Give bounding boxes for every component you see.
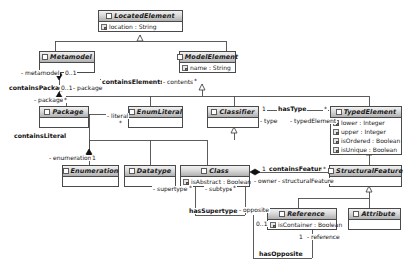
attribute-row: isUnique : Boolean — [331, 145, 401, 154]
class-header: Datatype — [125, 166, 175, 177]
class-name: Package — [52, 109, 83, 116]
role-label-contents: - contents — [162, 79, 194, 85]
class-icon — [328, 168, 334, 174]
class-attributes — [40, 118, 88, 127]
attribute-label: name : String — [190, 65, 231, 71]
class-header: Classifier — [208, 107, 258, 118]
class-header: ModelElement — [180, 52, 235, 63]
attribute-row: name : String — [180, 63, 235, 72]
attribute-label: isUnique : Boolean — [341, 147, 397, 153]
attribute-label: location : String — [109, 24, 157, 30]
class-attributes — [129, 118, 182, 127]
role-label-opposite: - opposite — [238, 207, 270, 213]
attribute-icon — [101, 24, 107, 30]
assoc-label-contains-literal: containsLiteral — [13, 133, 67, 139]
uml-class-package[interactable]: Package — [39, 106, 89, 128]
attribute-label: isOrdered : Boolean — [341, 138, 400, 144]
attribute-row: isOrdered : Boolean — [331, 136, 401, 145]
role-label-package: - package — [33, 97, 64, 103]
mult-label-typed-element: * — [323, 106, 328, 112]
mult-label-enumeration: 1 — [91, 155, 97, 161]
class-header: StructuralFeature — [330, 166, 401, 177]
class-name: TypedElement — [344, 109, 397, 116]
mult-label-package: * — [63, 97, 68, 103]
uml-class-model-element[interactable]: ModelElement name : String — [179, 51, 236, 73]
class-attributes: name : String — [180, 63, 235, 72]
role-label-typed-element: - typedElement — [289, 118, 337, 124]
attribute-row: location : String — [99, 22, 182, 31]
class-attributes — [330, 177, 401, 186]
uml-class-attribute[interactable]: Attribute — [348, 208, 401, 230]
class-name: EnumLiteral — [137, 109, 182, 116]
class-name: Class — [209, 168, 229, 175]
class-header: Enumeration — [63, 166, 118, 177]
attribute-icon — [270, 222, 276, 228]
role-label-package-mid: - package — [72, 85, 103, 91]
attribute-label: isContainer : Boolean — [278, 222, 342, 228]
attribute-row: isContainer : Boolean — [268, 220, 336, 229]
attribute-icon — [333, 129, 339, 135]
uml-class-structural-feature[interactable]: StructuralFeature — [329, 165, 402, 187]
class-header: Package — [40, 107, 88, 118]
class-header: Attribute — [349, 209, 400, 220]
attribute-row: lower : Integer — [331, 118, 401, 127]
role-label-subtype: - subtype — [204, 186, 234, 192]
uml-class-located-element[interactable]: LocatedElement location : String — [98, 10, 183, 32]
mult-label-reference: 1 — [298, 234, 304, 240]
attribute-label: isAbstract : Boolean — [191, 179, 251, 185]
class-attributes: isContainer : Boolean — [268, 220, 336, 229]
class-name: Datatype — [137, 168, 171, 175]
mult-label-owner: 1 — [261, 166, 267, 172]
uml-class-datatype[interactable]: Datatype — [124, 165, 176, 187]
class-name: ModelElement — [185, 54, 238, 61]
empty-compartment — [330, 177, 401, 186]
class-attributes — [349, 220, 400, 229]
class-attributes: lower : Integer upper : Integer isOrdere… — [331, 118, 401, 154]
uml-class-enum-literal[interactable]: EnumLiteral — [128, 106, 183, 128]
mult-label-supertype: * — [188, 185, 193, 191]
class-name: Metamodel — [50, 54, 92, 61]
class-icon — [211, 109, 217, 115]
attribute-icon — [333, 147, 339, 153]
class-name: Reference — [287, 211, 325, 218]
mult-label-type: 1 — [261, 106, 267, 112]
class-name: Classifier — [219, 109, 254, 116]
class-icon — [129, 109, 135, 115]
uml-class-diagram: LocatedElement location : String Metamod… — [0, 0, 408, 274]
mult-label-opposite: 0..1 — [255, 221, 268, 227]
uml-class-enumeration[interactable]: Enumeration — [62, 165, 119, 187]
class-header: Class — [181, 166, 249, 177]
class-header: LocatedElement — [99, 11, 182, 22]
role-label-structural-feature: - structuralFeature — [277, 178, 335, 184]
class-icon — [106, 13, 112, 19]
class-icon — [201, 168, 207, 174]
class-icon — [353, 211, 359, 217]
class-name: LocatedElement — [114, 13, 174, 20]
empty-compartment — [63, 177, 118, 186]
uml-class-typed-element[interactable]: TypedElement lower : Integer upper : Int… — [330, 106, 402, 155]
uml-class-reference[interactable]: Reference isContainer : Boolean — [267, 208, 337, 230]
assoc-label-has-supertype: hasSupertype — [188, 208, 238, 214]
class-header: EnumLiteral — [129, 107, 182, 118]
class-attributes: location : String — [99, 22, 182, 31]
role-label-type: - type — [259, 118, 278, 124]
class-header: Reference — [268, 209, 336, 220]
assoc-label-contains-feature: containsFeature — [268, 166, 327, 172]
attribute-icon — [182, 65, 188, 71]
class-header: TypedElement — [331, 107, 401, 118]
mult-label-literal: * — [118, 120, 123, 126]
role-label-metamodel: - metamodel — [20, 70, 60, 76]
class-attributes — [208, 118, 258, 127]
class-icon — [177, 54, 183, 60]
class-name: Enumeration — [71, 168, 119, 175]
role-label-enumeration: - enumeration — [48, 155, 93, 161]
assoc-label-has-type: hasType — [277, 106, 307, 112]
attribute-label: upper : Integer — [341, 129, 386, 135]
mult-label-metamodel: 0..1 — [64, 70, 77, 76]
empty-compartment — [129, 118, 182, 127]
class-icon — [129, 168, 135, 174]
uml-class-classifier[interactable]: Classifier — [207, 106, 259, 128]
role-label-supertype: - supertype — [152, 186, 188, 192]
empty-compartment — [40, 118, 88, 127]
class-name: Attribute — [361, 211, 395, 218]
